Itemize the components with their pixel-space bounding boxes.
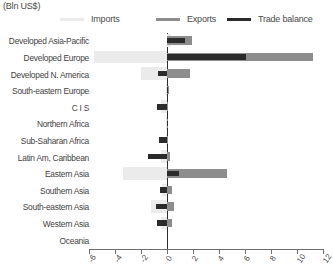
category-label: C I S <box>72 103 89 113</box>
x-axis-tick-label: -4 <box>113 253 124 264</box>
row-bars <box>89 99 323 116</box>
row-bars <box>89 232 323 249</box>
x-axis-tick <box>245 249 246 254</box>
legend-swatch-trade_balance <box>227 18 251 21</box>
row-bars <box>89 83 323 100</box>
chart-row: C I S <box>0 99 323 116</box>
chart-row: Developed Asia-Pacific <box>0 33 323 50</box>
x-axis-tick <box>219 249 220 254</box>
chart-legend: ImportsExportsTrade balance <box>60 12 323 26</box>
bar-exports <box>167 202 174 211</box>
x-axis-tick-label: 6 <box>242 254 252 263</box>
x-axis-tick-label: 12 <box>321 252 333 264</box>
bar-imports <box>94 51 167 64</box>
category-label: Developed Asia-Pacific <box>9 36 89 46</box>
bar-trade-balance <box>167 38 185 44</box>
bar-trade-balance <box>167 87 168 93</box>
x-axis: -6-4-2024681012 <box>89 249 323 277</box>
x-axis-tick-label: 8 <box>268 254 278 263</box>
x-axis-tick-label: 2 <box>190 254 200 263</box>
row-bars <box>89 66 323 83</box>
x-axis-tick <box>167 249 168 254</box>
category-label: Northern Africa <box>37 119 89 129</box>
row-bars <box>89 166 323 183</box>
bar-exports <box>167 102 168 111</box>
legend-item-imports: Imports <box>60 12 120 26</box>
row-bars <box>89 116 323 133</box>
x-axis-tick-label: 0 <box>164 254 174 263</box>
bar-trade-balance <box>156 204 167 210</box>
row-bars <box>89 133 323 150</box>
bar-trade-balance <box>167 121 168 127</box>
row-bars <box>89 33 323 50</box>
x-axis-tick-label: 4 <box>216 254 226 263</box>
bar-imports <box>123 167 167 180</box>
x-axis-tick <box>271 249 272 254</box>
bar-exports <box>167 152 170 161</box>
legend-swatch-imports <box>60 18 84 21</box>
category-label: Developed Europe <box>24 53 89 63</box>
bar-trade-balance <box>160 187 167 193</box>
row-bars <box>89 199 323 216</box>
row-bars <box>89 149 323 166</box>
chart-row: Sub-Saharan Africa <box>0 133 323 150</box>
chart-row: Eastern Asia <box>0 166 323 183</box>
chart-row: Latin Am, Caribbean <box>0 149 323 166</box>
bar-trade-balance <box>158 71 167 77</box>
legend-label-trade_balance: Trade balance <box>258 14 313 24</box>
x-axis-tick-label: -2 <box>139 253 150 264</box>
x-axis-tick <box>193 249 194 254</box>
chart-row: Developed N. America <box>0 66 323 83</box>
category-label: Southern Asia <box>40 186 89 196</box>
legend-item-trade_balance: Trade balance <box>227 12 313 26</box>
bar-exports <box>167 186 172 195</box>
category-label: Developed N. America <box>11 70 89 80</box>
x-axis-line <box>89 249 323 250</box>
category-label: Latin Am, Caribbean <box>18 153 89 163</box>
legend-swatch-exports <box>156 18 180 21</box>
bar-trade-balance <box>167 54 246 60</box>
category-label: South-eastern Europe <box>12 86 89 96</box>
bar-exports <box>167 136 168 145</box>
x-axis-tick-label: 10 <box>295 252 307 264</box>
plot-area: Developed Asia-PacificDeveloped EuropeDe… <box>0 33 323 249</box>
row-bars <box>89 183 323 200</box>
chart-row: South-eastern Europe <box>0 83 323 100</box>
row-bars <box>89 50 323 67</box>
category-label: Oceania <box>60 236 89 246</box>
chart-row: South-eastern Asia <box>0 199 323 216</box>
chart-row: Developed Europe <box>0 50 323 67</box>
chart-row: Northern Africa <box>0 116 323 133</box>
row-bars <box>89 216 323 233</box>
bar-trade-balance <box>167 171 179 177</box>
legend-label-exports: Exports <box>187 14 216 24</box>
category-label: South-eastern Asia <box>23 202 89 212</box>
chart-unit-title: (Bln US$) <box>3 1 40 11</box>
bar-trade-balance <box>157 104 167 110</box>
category-label: Western Asia <box>43 219 89 229</box>
bar-trade-balance <box>159 137 167 143</box>
category-label: Eastern Asia <box>45 169 89 179</box>
legend-label-imports: Imports <box>91 14 120 24</box>
chart-row: Western Asia <box>0 216 323 233</box>
bar-exports <box>167 69 190 78</box>
bar-trade-balance <box>148 154 168 160</box>
x-axis-tick-label: -6 <box>87 253 98 264</box>
bar-exports <box>167 219 172 228</box>
chart-row: Southern Asia <box>0 183 323 200</box>
category-label: Sub-Saharan Africa <box>21 136 89 146</box>
legend-item-exports: Exports <box>156 12 216 26</box>
chart-row: Oceania <box>0 232 323 249</box>
bar-trade-balance <box>157 220 167 226</box>
